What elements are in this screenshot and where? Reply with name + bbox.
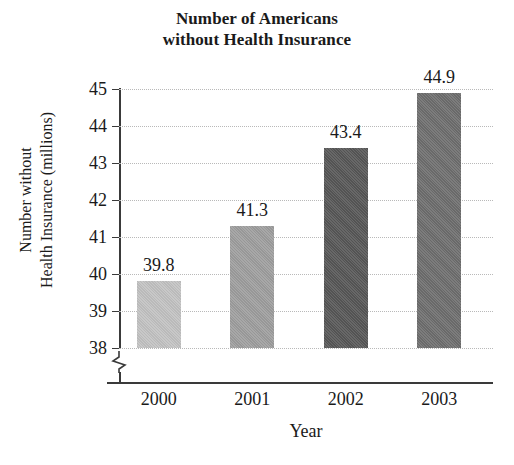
- y-tick-label: 41: [67, 228, 107, 246]
- x-tick-label: 2000: [116, 388, 202, 410]
- chart-title-line-1: Number of Americans: [0, 8, 514, 29]
- gridline: [119, 348, 493, 349]
- gridline: [119, 89, 493, 90]
- x-tick-label: 2001: [209, 388, 295, 410]
- y-tick-label: 39: [67, 302, 107, 320]
- y-tick-mark: [112, 200, 119, 201]
- bar-texture: [417, 93, 461, 348]
- y-tick-mark: [112, 237, 119, 238]
- y-tick-mark: [112, 89, 119, 90]
- y-axis-title-line-2: Health Insurance (millions): [36, 112, 57, 288]
- chart-title: Number of Americans without Health Insur…: [0, 8, 514, 50]
- chart-title-line-2: without Health Insurance: [0, 29, 514, 50]
- y-tick-mark: [112, 163, 119, 164]
- bar[interactable]: [230, 226, 274, 348]
- y-tick-mark: [112, 274, 119, 275]
- bar[interactable]: [137, 281, 181, 348]
- y-axis-title-line-1: Number without: [15, 112, 36, 288]
- y-tick-label: 43: [67, 154, 107, 172]
- y-tick-mark: [112, 311, 119, 312]
- y-axis-title: Number without Health Insurance (million…: [15, 112, 57, 288]
- x-tick-label: 2003: [396, 388, 482, 410]
- y-tick-label: 45: [67, 80, 107, 98]
- bar-texture: [324, 148, 368, 348]
- bar-value-label: 39.8: [124, 256, 194, 274]
- bar[interactable]: [417, 93, 461, 348]
- y-tick-label: 38: [67, 339, 107, 357]
- y-tick-mark: [112, 348, 119, 349]
- bar-value-label: 44.9: [404, 68, 474, 86]
- bar-texture: [137, 281, 181, 348]
- plot-area: 4544434241403938 39.841.343.444.9: [119, 89, 493, 348]
- y-tick-label: 42: [67, 191, 107, 209]
- bar-value-label: 43.4: [311, 123, 381, 141]
- axis-break-icon: [110, 350, 132, 374]
- bar[interactable]: [324, 148, 368, 348]
- x-tick-label: 2002: [303, 388, 389, 410]
- y-tick-mark: [112, 126, 119, 127]
- y-tick-label: 44: [67, 117, 107, 135]
- x-axis-line: [107, 382, 493, 384]
- x-axis-title: Year: [119, 420, 493, 442]
- y-axis-title-wrap: Number without Health Insurance (million…: [6, 0, 66, 400]
- bar-value-label: 41.3: [217, 201, 287, 219]
- bar-chart: Number of Americans without Health Insur…: [0, 0, 514, 465]
- bar-texture: [230, 226, 274, 348]
- y-tick-label: 40: [67, 265, 107, 283]
